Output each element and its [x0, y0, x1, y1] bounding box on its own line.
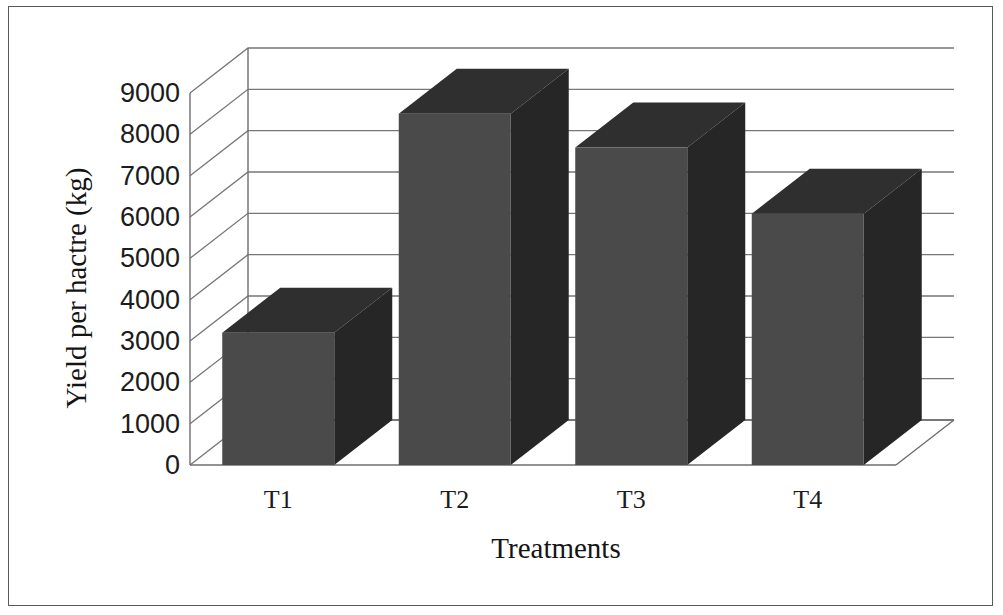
bar-side-face [511, 69, 569, 465]
bar-T4 [752, 169, 922, 465]
figure-root: 9000800070006000500040003000200010000 T1… [0, 0, 1003, 615]
x-category-label: T2 [440, 485, 469, 514]
x-category-label: T1 [264, 485, 293, 514]
y-tick-label: 7000 [120, 161, 180, 191]
bar-side-face [687, 103, 745, 465]
plot-area: 9000800070006000500040003000200010000 T1… [120, 48, 954, 514]
bar-series [222, 69, 922, 465]
bar-front-face [752, 214, 864, 465]
y-axis-tick-labels: 9000800070006000500040003000200010000 [120, 78, 180, 480]
bar-front-face [575, 148, 687, 465]
bar-front-face [222, 333, 334, 465]
y-tick-label: 9000 [120, 78, 180, 108]
bar-T1 [222, 288, 392, 465]
gridline [190, 48, 954, 93]
bar-T3 [575, 103, 745, 465]
y-tick-label: 1000 [120, 409, 180, 439]
y-tick-label: 8000 [120, 119, 180, 149]
y-tick-label: 6000 [120, 202, 180, 232]
y-tick-label: 2000 [120, 367, 180, 397]
x-category-label: T4 [793, 485, 822, 514]
y-axis-title: Yield per hactre (kg) [60, 168, 93, 409]
x-axis-category-labels: T1T2T3T4 [264, 485, 822, 514]
bar-front-face [399, 114, 511, 465]
y-tick-label: 3000 [120, 326, 180, 356]
bar-T2 [399, 69, 569, 465]
bar-chart-3d: 9000800070006000500040003000200010000 T1… [0, 0, 1003, 615]
y-tick-label: 4000 [120, 285, 180, 315]
x-category-label: T3 [617, 485, 646, 514]
bar-side-face [864, 169, 922, 465]
x-axis-title: Treatments [491, 532, 620, 564]
y-tick-label: 0 [165, 450, 180, 480]
gridline [190, 89, 954, 134]
y-tick-label: 5000 [120, 243, 180, 273]
